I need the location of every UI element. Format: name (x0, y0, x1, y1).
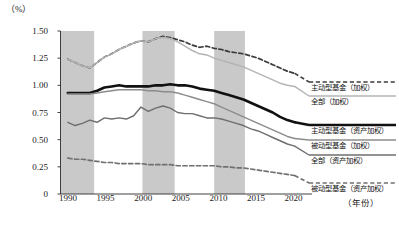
legend-label-passive-weighted: 被动型基金（加权） (311, 142, 374, 149)
legend-label-all-assetwt: 全部（资产加权） (311, 157, 367, 164)
legend-label-passive-assetwt: 被动型基金（资产加权） (311, 185, 388, 192)
recession-band-1 (61, 31, 95, 194)
legend-leader-1 (295, 86, 309, 96)
legend-label-active-assetwt: 主动型基金（资产加权） (311, 127, 388, 134)
series-line-3 (68, 90, 295, 139)
legend-leader-0 (295, 73, 309, 82)
series-line-4 (68, 106, 295, 146)
chart-container: （%） 1.50 1.25 1.00 0.75 0.50 0.25 0 1990… (0, 0, 399, 233)
legend-leader-4 (295, 146, 309, 155)
legend-leader-3 (295, 139, 309, 140)
legend-leader-2 (295, 122, 309, 125)
recession-band-2 (142, 31, 174, 194)
legend-label-active-weighted: 主动型基金（加权） (311, 84, 374, 91)
series-line-5 (68, 158, 295, 175)
series-line-2 (68, 84, 295, 122)
recession-band-3 (214, 31, 245, 194)
plot-area (0, 0, 399, 233)
legend-label-all-weighted: 全部（加权） (311, 98, 353, 105)
series-line-1 (68, 38, 295, 87)
legend-leader-5 (295, 176, 309, 183)
series-line-0 (68, 36, 295, 73)
